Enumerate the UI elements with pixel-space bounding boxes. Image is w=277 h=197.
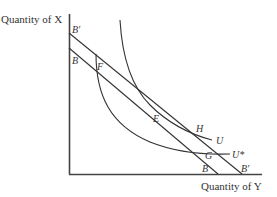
label-b-top: B xyxy=(72,55,78,66)
label-u-star: U* xyxy=(232,149,244,160)
label-b-prime-bottom: B′ xyxy=(241,163,250,174)
x-axis-label: Quantity of Y xyxy=(201,180,262,192)
label-b-bottom: B xyxy=(202,163,208,174)
budget-line-b-prime xyxy=(69,33,242,174)
label-f: F xyxy=(96,61,104,72)
indifference-diagram: Quantity of X Quantity of Y B′ B B B′ F … xyxy=(0,0,277,197)
indifference-curve-u xyxy=(120,20,212,140)
label-b-prime-top: B′ xyxy=(72,24,81,35)
label-h: H xyxy=(195,123,204,134)
label-u: U xyxy=(216,135,224,146)
budget-line-b xyxy=(69,48,218,174)
y-axis-label: Quantity of X xyxy=(1,13,62,25)
label-e: E xyxy=(152,113,159,124)
label-g: G xyxy=(205,150,212,161)
